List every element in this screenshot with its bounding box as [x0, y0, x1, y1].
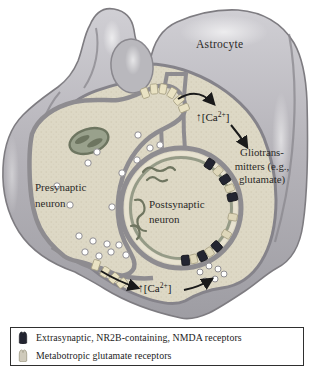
- nmda-receptor-icon: [17, 331, 29, 344]
- postsynaptic-neuron-label: Postsynapticneuron: [149, 197, 205, 227]
- legend-box: Extrasynaptic, NR2B-containing, NMDA rec…: [10, 327, 304, 366]
- presynaptic-label-line1: Presynaptic: [35, 181, 86, 193]
- presynaptic-neuron-label: Presynapticneuron: [35, 179, 86, 211]
- tripartite-synapse-figure: Astrocyte Presynapticneuron Postsynaptic…: [0, 0, 311, 380]
- legend-label-nmda: Extrasynaptic, NR2B-containing, NMDA rec…: [36, 332, 242, 343]
- postsynaptic-label-line1: Postsynaptic: [149, 198, 205, 210]
- gliotransmitters-line1: Gliotrans-: [240, 146, 284, 158]
- mglur-receptor-icon: [17, 349, 29, 362]
- legend-item-nmda: Extrasynaptic, NR2B-containing, NMDA rec…: [17, 330, 303, 346]
- legend-item-mglur: Metabotropic glutamate receptors: [17, 348, 303, 364]
- legend-label-mglur: Metabotropic glutamate receptors: [36, 350, 171, 361]
- gliotransmitters-line3: glutamate): [239, 173, 285, 185]
- presynaptic-label-line2: neuron: [35, 197, 66, 209]
- gliotransmitters-line2: mitters (e.g.,: [235, 160, 290, 172]
- gliotransmitters-label: Gliotrans-mitters (e.g.,glutamate): [211, 146, 311, 187]
- calcium-increase-label-bottom: ↑[Ca2+]: [138, 281, 171, 294]
- postsynaptic-label-line2: neuron: [149, 213, 180, 225]
- calcium-increase-label-top: ↑[Ca2+]: [196, 110, 229, 123]
- astrocyte-label: Astrocyte: [196, 38, 243, 51]
